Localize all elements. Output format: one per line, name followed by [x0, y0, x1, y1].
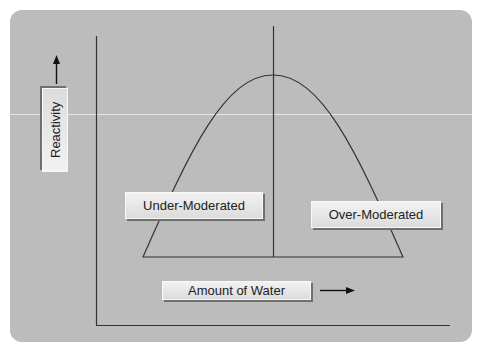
- arrow-up-icon: [53, 55, 60, 84]
- over-moderated-label: Over-Moderated: [311, 201, 441, 228]
- arrow-right-icon: [320, 287, 355, 294]
- y-axis-label: Reactivity: [42, 88, 68, 172]
- under-moderated-label: Under-Moderated: [125, 192, 263, 219]
- x-axis-label: Amount of Water: [162, 281, 311, 300]
- moderation-curve-diagram: [0, 0, 482, 353]
